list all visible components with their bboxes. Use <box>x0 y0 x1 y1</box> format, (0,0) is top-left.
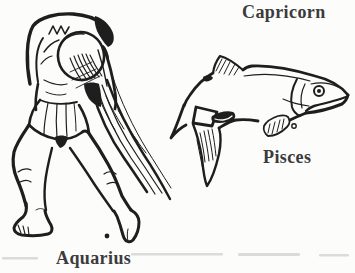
aquarius-tunic <box>29 100 89 148</box>
pisces-illustration <box>171 56 348 186</box>
zodiac-page: Capricorn Pisces Aquarius <box>0 0 355 273</box>
fish-pectoral-fin <box>264 115 290 136</box>
aquarius-left-leg <box>13 125 52 236</box>
ink-drop-dot <box>105 234 110 239</box>
aquarius-right-leg <box>70 132 139 242</box>
water-streams <box>70 54 171 199</box>
capricorn-label: Capricorn <box>242 3 326 21</box>
aquarius-head <box>95 16 114 47</box>
pisces-label: Pisces <box>263 148 311 166</box>
aquarius-illustration <box>13 14 171 242</box>
scan-smudges <box>2 253 349 260</box>
illustration-canvas <box>0 0 355 273</box>
fish-gill <box>291 79 300 116</box>
bubble-dot <box>292 124 296 128</box>
fish-dorsal-fin <box>213 56 243 75</box>
aquarius-label: Aquarius <box>56 249 131 267</box>
fish-tail <box>171 105 235 186</box>
aquarius-hand-fingers <box>49 26 69 34</box>
